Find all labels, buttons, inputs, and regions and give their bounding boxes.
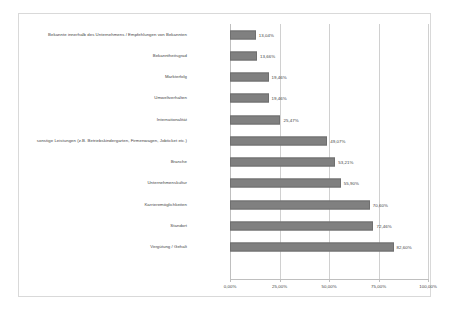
bar-row: Standort72,46% [19, 215, 430, 236]
category-label: Vergütung / Gehalt [0, 244, 187, 249]
x-tick-mark [230, 279, 231, 282]
bar-value-label: 82,60% [397, 245, 412, 250]
bar-group: 25,47% [230, 115, 299, 124]
category-label: Umweltverhalten [0, 96, 187, 101]
bar-row: Internationalität25,47% [19, 109, 430, 130]
bar-value-label: 55,90% [344, 181, 359, 186]
bar-row: Karrieremöglichkeiten70,60% [19, 194, 430, 215]
bar-group: 19,46% [230, 94, 287, 103]
bar-value-label: 53,21% [338, 160, 353, 165]
bar-row: Vergütung / Gehalt82,60% [19, 237, 430, 258]
x-tick-mark [379, 279, 380, 282]
x-tick-mark [280, 279, 281, 282]
bar-value-label: 25,47% [283, 117, 298, 122]
category-label: Internationalität [0, 117, 187, 122]
bar [230, 179, 341, 188]
bar-value-label: 49,07% [330, 138, 345, 143]
bar-group: 70,60% [230, 200, 388, 209]
bar [230, 243, 394, 252]
category-label: Unternehmenskultur [0, 181, 187, 186]
bar-value-label: 13,66% [260, 53, 275, 58]
bar-value-label: 19,46% [272, 96, 287, 101]
bar-row: Branche53,21% [19, 152, 430, 173]
bar [230, 136, 327, 145]
bar-row: Unternehmenskultur55,90% [19, 173, 430, 194]
bar [230, 73, 269, 82]
bar [230, 51, 257, 60]
chart-frame: Bekannte innerhalb des Unternehmens / Em… [18, 13, 431, 297]
category-label: Standort [0, 223, 187, 228]
bar-value-label: 72,46% [376, 223, 391, 228]
x-tick-label: 75,00% [371, 284, 386, 289]
bar [230, 158, 335, 167]
bar-group: 13,66% [230, 51, 275, 60]
x-tick-label: 50,00% [321, 284, 336, 289]
bar-group: 19,46% [230, 73, 287, 82]
x-tick-mark [329, 279, 330, 282]
bar-group: 55,90% [230, 179, 359, 188]
bar-row: Bekanntheitsgrad13,66% [19, 45, 430, 66]
category-label: sonstige Leistungen (z.B. Betriebskinder… [0, 138, 187, 143]
bar [230, 115, 280, 124]
bar-group: 72,46% [230, 221, 392, 230]
bar-group: 49,07% [230, 136, 345, 145]
category-label: Karrieremöglichkeiten [0, 202, 187, 207]
category-label: Bekannte innerhalb des Unternehmens / Em… [0, 32, 187, 37]
bar-group: 13,04% [230, 30, 274, 39]
bar [230, 200, 370, 209]
bar-group: 82,60% [230, 243, 412, 252]
x-tick-label: 0,00% [224, 284, 237, 289]
category-label: Markterfolg [0, 74, 187, 79]
bar-row: Bekannte innerhalb des Unternehmens / Em… [19, 24, 430, 45]
bar-group: 53,21% [230, 158, 354, 167]
bar-value-label: 13,04% [259, 32, 274, 37]
bar-row: Umweltverhalten19,46% [19, 88, 430, 109]
bar-rows: Bekannte innerhalb des Unternehmens / Em… [19, 24, 430, 279]
x-tick-label: 25,00% [272, 284, 287, 289]
bar [230, 30, 256, 39]
bar [230, 221, 373, 230]
bar-value-label: 70,60% [373, 202, 388, 207]
category-label: Bekanntheitsgrad [0, 53, 187, 58]
x-tick-mark [428, 279, 429, 282]
bar-row: Markterfolg19,46% [19, 67, 430, 88]
bar-value-label: 19,46% [272, 75, 287, 80]
x-tick-label: 100,00% [419, 284, 437, 289]
bar [230, 94, 269, 103]
category-label: Branche [0, 159, 187, 164]
bar-row: sonstige Leistungen (z.B. Betriebskinder… [19, 130, 430, 151]
